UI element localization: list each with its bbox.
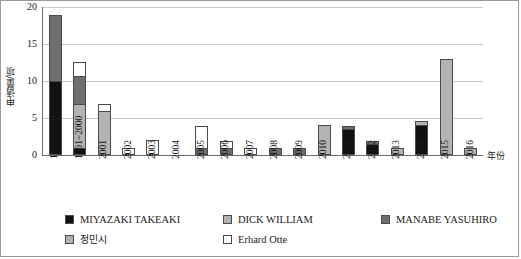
plot-area: 申请量/项 05101520 1975~19901991~20002001200…: [1, 1, 520, 201]
y-axis-title: 申请量/项: [2, 31, 18, 141]
legend-label: MIYAZAKI TAKEAKI: [80, 214, 180, 225]
x-tick-slot: 2011: [335, 157, 359, 201]
chart-legend: MIYAZAKI TAKEAKIDICK WILLIAMMANABE YASUH…: [1, 206, 520, 256]
bar-segment: [73, 76, 86, 106]
bar-group: [287, 7, 311, 155]
x-axis-tick-label: 2002: [123, 140, 133, 159]
y-axis-tick-label: 20: [17, 2, 37, 12]
x-axis-tick-label: 1975~1990: [49, 116, 59, 159]
x-tick-slot: 1975~1990: [42, 157, 66, 201]
legend-label: DICK WILLIAM: [238, 214, 313, 225]
x-axis-tick-label: 2015: [440, 140, 450, 159]
legend-label: Erhard Otte: [238, 234, 287, 245]
x-axis-tick-label: 1991~2000: [74, 116, 84, 159]
legend-label: 정민시: [80, 234, 107, 245]
bar-group: [214, 7, 238, 155]
x-tick-slot: 2003: [140, 157, 164, 201]
bar-segment: [49, 15, 62, 82]
x-axis-tick-label: 2005: [196, 140, 206, 159]
legend-swatch-icon: [223, 235, 232, 244]
x-axis-tick-label: 2011: [342, 140, 352, 159]
x-axis-tick-label: 2008: [269, 140, 279, 159]
bar-group: [263, 7, 287, 155]
x-axis-tick-label: 2016: [465, 140, 475, 159]
legend-swatch-icon: [381, 215, 390, 224]
legend-item[interactable]: MIYAZAKI TAKEAKI: [65, 211, 223, 228]
legend-row: 정민시Erhard Otte: [65, 231, 505, 248]
legend-swatch-icon: [65, 215, 74, 224]
x-axis-tick-label: 2010: [318, 140, 328, 159]
x-axis-tick-label: 2006: [220, 140, 230, 159]
y-axis-tick-label: 5: [17, 113, 37, 123]
x-axis-tick-label: 2007: [245, 140, 255, 159]
x-axis-tick-label: 2013: [391, 140, 401, 159]
x-tick-slot: 1991~2000: [66, 157, 90, 201]
legend-label: MANABE YASUHIRO: [396, 214, 497, 225]
x-tick-slot: 2002: [115, 157, 139, 201]
x-tick-slot: 2012: [360, 157, 384, 201]
chart-figure: 申请量/项 05101520 1975~19901991~20002001200…: [0, 0, 519, 257]
x-tick-slot: 2013: [384, 157, 408, 201]
x-tick-slot: 2010: [311, 157, 335, 201]
bar-series-group: [43, 7, 483, 155]
x-tick-slot: 2001: [91, 157, 115, 201]
y-axis-tick-label: 15: [17, 39, 37, 49]
x-axis-tick-labels: 1975~19901991~20002001200220032004200520…: [42, 157, 482, 201]
legend-row: MIYAZAKI TAKEAKIDICK WILLIAMMANABE YASUH…: [65, 211, 505, 228]
bar-group: [92, 7, 116, 155]
legend-item[interactable]: 정민시: [65, 231, 223, 248]
x-axis-tick-label: 2004: [171, 140, 181, 159]
bar-group: [239, 7, 263, 155]
legend-swatch-icon: [223, 215, 232, 224]
x-axis-tick-label: 2001: [98, 140, 108, 159]
legend-swatch-icon: [65, 235, 74, 244]
x-tick-slot: 2015: [433, 157, 457, 201]
y-axis-tick-label: 0: [17, 150, 37, 160]
bar-group: [361, 7, 385, 155]
axes: [42, 7, 483, 156]
y-axis-tick-label: 10: [17, 76, 37, 86]
x-tick-slot: 2004: [164, 157, 188, 201]
x-tick-slot: 2008: [262, 157, 286, 201]
x-axis-tick-label: 2012: [367, 140, 377, 159]
x-tick-slot: 2016: [457, 157, 481, 201]
y-axis-tick-labels: 05101520: [17, 1, 41, 161]
x-tick-slot: 2009: [286, 157, 310, 201]
bar-group: [165, 7, 189, 155]
bar-group: [312, 7, 336, 155]
x-axis-title: 年份: [487, 149, 505, 162]
legend-item[interactable]: Erhard Otte: [223, 231, 381, 248]
bar-group: [434, 7, 458, 155]
x-axis-tick-label: 2009: [294, 140, 304, 159]
x-tick-slot: 2007: [238, 157, 262, 201]
legend-item[interactable]: DICK WILLIAM: [223, 211, 381, 228]
bar-group: [116, 7, 140, 155]
bar-group: [190, 7, 214, 155]
bar-group: [410, 7, 434, 155]
x-axis-tick-label: 2003: [147, 140, 157, 159]
bar-group: [141, 7, 165, 155]
bar-segment: [73, 62, 86, 77]
x-tick-slot: 2006: [213, 157, 237, 201]
bar-group: [336, 7, 360, 155]
x-axis-tick-label: 2014: [416, 140, 426, 159]
x-tick-slot: 2005: [189, 157, 213, 201]
bar-group: [458, 7, 482, 155]
bar-group: [385, 7, 409, 155]
legend-item[interactable]: MANABE YASUHIRO: [381, 211, 497, 228]
x-tick-slot: 2014: [409, 157, 433, 201]
